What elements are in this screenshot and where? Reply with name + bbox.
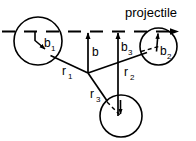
r1-label-subscript: 1 bbox=[68, 72, 73, 81]
b-label: b bbox=[92, 45, 99, 59]
b2-label: b bbox=[160, 44, 167, 58]
diagram-canvas: projectile b 1 b b 3 b 2 r 1 r 2 r 3 bbox=[0, 0, 196, 141]
r1-radius-vector bbox=[51, 56, 89, 74]
r3-label: r bbox=[90, 87, 94, 101]
r2-label: r bbox=[124, 65, 128, 79]
b3-label-subscript: 3 bbox=[128, 48, 133, 57]
circle3-dashed-radius bbox=[107, 102, 121, 116]
b1-label: b bbox=[44, 36, 51, 50]
scattering-geometry-diagram: projectile b 1 b b 3 b 2 r 1 r 2 r 3 bbox=[0, 0, 196, 141]
b3-label: b bbox=[121, 40, 128, 54]
b2-label-subscript: 2 bbox=[167, 52, 172, 61]
b2-impact-marker bbox=[157, 34, 159, 52]
b1-label-subscript: 1 bbox=[51, 44, 56, 53]
r1-label: r bbox=[62, 64, 66, 78]
r2-label-subscript: 2 bbox=[130, 73, 135, 82]
projectile-label: projectile bbox=[125, 5, 177, 20]
r3-label-subscript: 3 bbox=[96, 95, 101, 104]
